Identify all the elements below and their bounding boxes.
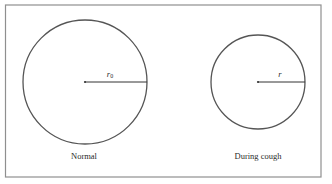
normal-radius-label: r0 — [107, 69, 113, 79]
cough-caption: During cough — [235, 151, 282, 161]
diagram-figure — [0, 0, 332, 184]
normal-center-dot — [84, 81, 86, 83]
cough-center-dot — [257, 81, 259, 83]
cough-radius-symbol: r — [278, 69, 281, 79]
diagram-canvas: r0 r Normal During cough — [0, 0, 332, 184]
normal-radius-subscript: 0 — [110, 73, 113, 79]
cough-radius-label: r — [278, 69, 281, 79]
normal-caption: Normal — [71, 151, 97, 161]
